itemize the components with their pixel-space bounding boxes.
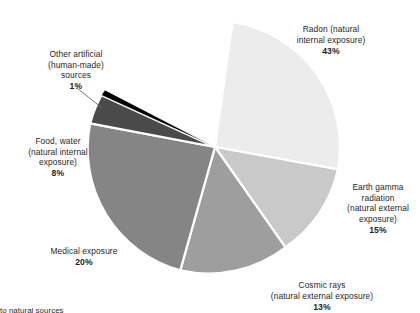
slice-label-radon: Radon (natural internal exposure) 43% xyxy=(268,14,394,67)
slice-label-food-water: Food, water (natural internal exposure) … xyxy=(6,126,110,189)
slice-value-medical-exposure: 20% xyxy=(26,257,142,267)
slice-label-radon-text: Radon (natural internal exposure) xyxy=(297,24,366,44)
slice-value-earth-gamma: 15% xyxy=(338,225,418,235)
figure-caption-cropped: to natural sources xyxy=(0,306,420,313)
slice-label-earth-gamma: Earth gamma radiation (natural external … xyxy=(338,172,418,245)
slice-value-other-artificial: 1% xyxy=(22,81,130,91)
slice-value-food-water: 8% xyxy=(6,168,110,178)
slice-label-food-water-text: Food, water (natural internal exposure) xyxy=(28,136,88,167)
slice-label-other-artificial-text: Other artificial (human-made) sources xyxy=(48,49,104,80)
pie-chart-figure: Radon (natural internal exposure) 43% Ea… xyxy=(0,0,420,313)
slice-label-medical-exposure: Medical exposure 20% xyxy=(26,236,142,278)
slice-label-medical-exposure-text: Medical exposure xyxy=(51,246,118,256)
slice-label-other-artificial: Other artificial (human-made) sources 1% xyxy=(22,39,130,102)
slice-label-earth-gamma-text: Earth gamma radiation (natural external … xyxy=(347,182,409,223)
slice-label-cosmic-rays-text: Cosmic rays (natural external exposure) xyxy=(271,280,373,300)
slice-value-radon: 43% xyxy=(268,46,394,56)
